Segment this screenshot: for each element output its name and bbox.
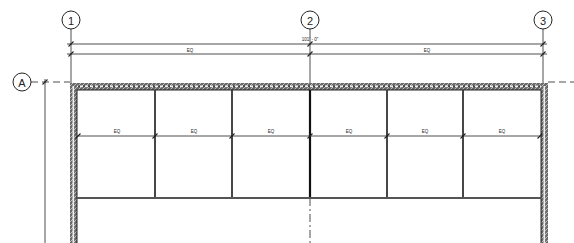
overall-dimension-text: 101' - 0": [302, 37, 319, 42]
bay-dimension-4: EQ: [346, 129, 353, 134]
bay-dimension-6: EQ: [499, 129, 506, 134]
segment-dimension-1-2: EQ: [187, 48, 194, 53]
vertical-dimension[interactable]: [43, 79, 48, 243]
overall-dimension[interactable]: 101' - 0": [67, 37, 547, 47]
bay-dimension-3: EQ: [268, 129, 275, 134]
grid-label-a: A: [18, 77, 26, 89]
grid-line-3: 3: [534, 11, 552, 84]
curtain-wall-grid[interactable]: [77, 90, 541, 198]
drawing-canvas: 1 2 3 A 101' - 0" EQ EQ: [0, 0, 574, 243]
bay-dimension-1: EQ: [114, 129, 121, 134]
segment-dimension-2-3: EQ: [424, 48, 431, 53]
bay-dimension-5: EQ: [422, 129, 429, 134]
bay-dimension-2: EQ: [191, 129, 198, 134]
grid-label-1: 1: [68, 15, 74, 27]
grid-label-3: 3: [540, 15, 546, 27]
segment-dimensions[interactable]: EQ EQ: [67, 48, 547, 57]
grid-line-1: 1: [62, 11, 80, 90]
grid-label-2: 2: [307, 15, 313, 27]
